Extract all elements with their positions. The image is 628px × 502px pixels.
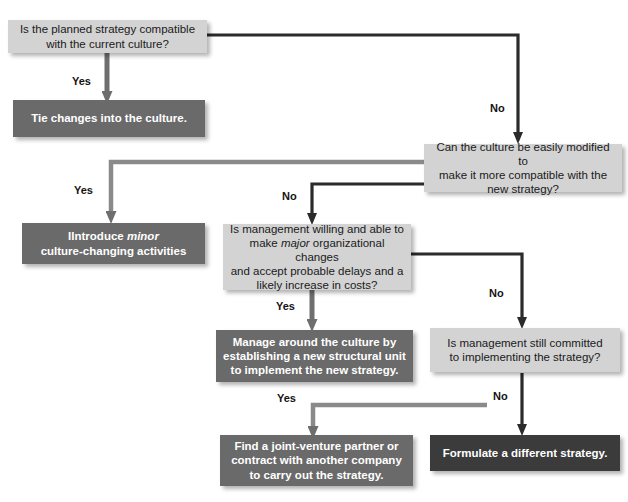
node-q3-text: Is management willing and able to make m… [230, 222, 404, 292]
flowchart-canvas: Is the planned strategy compatible with … [0, 0, 628, 502]
node-a3-text: Manage around the culture by establishin… [223, 335, 406, 377]
node-a1-text: Tie changes into the culture. [31, 111, 187, 125]
node-a2-text: IIntroduce minor culture-changing activi… [41, 229, 187, 257]
node-a4-find-joint-venture-partner[interactable]: Find a joint-venture partner or contract… [220, 435, 413, 486]
node-q3-line2: make major organizational changes [250, 237, 385, 263]
node-a4-text: Find a joint-venture partner or contract… [231, 439, 402, 481]
edge-label-q4-no: No [493, 390, 508, 402]
edge-q2-no [312, 184, 424, 214]
node-q1-strategy-culture-compatible[interactable]: Is the planned strategy compatible with … [8, 20, 207, 53]
node-a1-tie-changes-into-culture[interactable]: Tie changes into the culture. [13, 100, 205, 137]
node-a3-manage-around-culture[interactable]: Manage around the culture by establishin… [216, 330, 413, 382]
node-q3-management-willing-major-changes[interactable]: Is management willing and able to make m… [223, 224, 411, 290]
edge-label-q1-no: No [490, 102, 505, 114]
edge-label-q3-yes: Yes [276, 300, 295, 312]
node-a2-line1: Introduce minor [71, 230, 159, 242]
node-q4-text: Is management still committed to impleme… [447, 336, 602, 364]
edge-label-q4-yes: Yes [277, 392, 296, 404]
node-q4-management-still-committed[interactable]: Is management still committed to impleme… [430, 328, 620, 372]
node-q2-text: Can the culture be easily modified to ma… [431, 140, 615, 196]
edge-q3-no [411, 254, 522, 318]
edge-label-q2-yes: Yes [74, 184, 93, 196]
edge-q2-yes [111, 162, 424, 212]
node-a5-formulate-different-strategy[interactable]: Formulate a different strategy. [430, 435, 620, 471]
edge-q1-no [207, 35, 518, 133]
node-q1-text: Is the planned strategy compatible with … [20, 22, 195, 50]
edge-label-q2-no: No [282, 190, 297, 202]
edge-q4-yes [313, 405, 487, 427]
node-a5-text: Formulate a different strategy. [443, 446, 608, 460]
node-a2-introduce-minor-culture-changes[interactable]: IIntroduce minor culture-changing activi… [22, 223, 205, 264]
edge-label-q3-no: No [489, 287, 504, 299]
edge-label-q1-yes: Yes [72, 75, 91, 87]
node-q2-culture-easily-modified[interactable]: Can the culture be easily modified to ma… [424, 144, 622, 192]
